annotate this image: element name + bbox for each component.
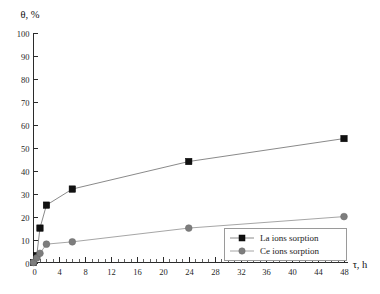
line-chart: θ, % τ, h 0102030405060708090100 0481216… <box>0 0 380 294</box>
y-tick-label: 0 <box>25 259 29 269</box>
data-point-marker <box>185 225 192 232</box>
legend-label-1: La ions sorption <box>260 233 319 243</box>
x-tick-label: 40 <box>288 267 297 277</box>
data-point-marker <box>37 225 43 231</box>
x-tick-label: 0 <box>32 267 36 277</box>
y-axis-title: θ, % <box>20 9 39 20</box>
y-tick-label: 50 <box>21 144 30 154</box>
x-tick-label: 48 <box>340 267 349 277</box>
y-tick-label: 100 <box>17 29 30 39</box>
data-point-marker <box>341 135 347 141</box>
legend-marker-2 <box>239 248 245 254</box>
data-point-marker <box>69 238 76 245</box>
x-tick-label: 44 <box>314 267 323 277</box>
data-point-marker <box>341 213 348 220</box>
x-axis-title: τ, h <box>353 259 368 270</box>
legend-marker-1 <box>239 235 245 241</box>
data-point-marker <box>43 241 50 248</box>
data-point-marker <box>43 202 49 208</box>
data-point-marker <box>186 158 192 164</box>
x-tick-label: 12 <box>107 267 116 277</box>
y-tick-label: 90 <box>21 52 30 62</box>
y-tick-label: 70 <box>21 98 30 108</box>
legend-label-2: Ce ions sorption <box>260 246 320 256</box>
y-tick-label: 80 <box>21 75 30 85</box>
x-tick-label: 28 <box>211 267 220 277</box>
y-axis-ticks: 0102030405060708090100 <box>17 29 38 269</box>
y-tick-label: 40 <box>21 167 30 177</box>
x-tick-label: 16 <box>133 267 142 277</box>
data-point-marker <box>69 186 75 192</box>
y-tick-label: 60 <box>21 121 30 131</box>
x-tick-label: 4 <box>57 267 62 277</box>
x-tick-label: 32 <box>237 267 246 277</box>
x-tick-label: 20 <box>159 267 168 277</box>
x-tick-label: 36 <box>262 267 271 277</box>
y-tick-label: 10 <box>21 236 30 246</box>
data-point-marker <box>37 250 44 257</box>
chart-legend: La ions sorptionCe ions sorption <box>225 229 347 261</box>
y-tick-label: 20 <box>21 213 30 223</box>
y-tick-label: 30 <box>21 190 30 200</box>
x-tick-label: 8 <box>83 267 87 277</box>
chart-container: θ, % τ, h 0102030405060708090100 0481216… <box>0 0 380 294</box>
x-tick-label: 24 <box>185 267 194 277</box>
